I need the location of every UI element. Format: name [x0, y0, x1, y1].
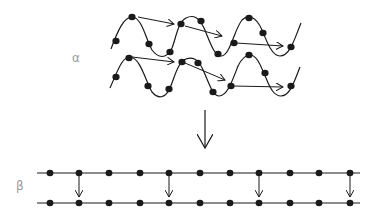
residue-dot: [137, 200, 144, 206]
beta-sheet-group: [37, 170, 360, 206]
residue-dot: [166, 49, 173, 55]
residue-dot: [197, 200, 204, 206]
residue-dot: [145, 41, 152, 47]
residue-dot: [227, 200, 234, 206]
alpha-helix-group: [110, 14, 301, 97]
hbond-arrow: [236, 43, 283, 46]
residue-dot: [112, 74, 119, 80]
residue-dot: [197, 18, 204, 24]
residue-dot: [106, 170, 113, 176]
hbond-arrow: [138, 17, 174, 24]
residue-dot: [227, 83, 234, 89]
residue-dot: [316, 200, 323, 206]
residue-dot: [144, 83, 151, 89]
residue-dot: [316, 170, 323, 176]
residue-dot: [227, 170, 234, 176]
hbond-arrow: [185, 63, 225, 80]
residue-dot: [287, 44, 294, 50]
helix-backbone: [110, 55, 300, 97]
residue-dot: [261, 70, 268, 76]
hbond-arrow: [132, 57, 174, 62]
residue-dot: [112, 38, 119, 44]
residue-dot: [137, 170, 144, 176]
residue-dot: [76, 170, 83, 176]
residue-dot: [287, 83, 294, 89]
residue-dot: [259, 30, 266, 36]
residue-dot: [256, 200, 263, 206]
residue-dot: [197, 170, 204, 176]
residue-dot: [125, 55, 132, 61]
residue-dot: [245, 52, 252, 58]
residue-dot: [128, 14, 135, 20]
residue-dot: [178, 59, 185, 65]
residue-dot: [347, 170, 354, 176]
beta-label: β: [16, 179, 24, 193]
protein-structure-diagram: α β: [0, 0, 378, 217]
residue-dot: [166, 200, 173, 206]
residue-dot: [106, 200, 113, 206]
helix-backbone: [111, 16, 301, 56]
alpha-label: α: [72, 51, 80, 65]
residue-dot: [256, 170, 263, 176]
diagram-canvas: [0, 0, 378, 217]
residue-dot: [287, 200, 294, 206]
residue-dot: [166, 170, 173, 176]
residue-dot: [287, 170, 294, 176]
residue-dot: [165, 86, 172, 92]
residue-dot: [347, 200, 354, 206]
residue-dot: [214, 51, 221, 57]
residue-dot: [245, 15, 252, 21]
residue-dot: [230, 40, 237, 46]
residue-dot: [177, 21, 184, 27]
residue-dot: [194, 60, 201, 66]
hbond-arrow: [233, 86, 283, 87]
residue-dot: [47, 170, 54, 176]
residue-dot: [76, 200, 83, 206]
helix-strand-1: [111, 14, 301, 57]
residue-dot: [209, 89, 216, 95]
residue-dot: [47, 200, 54, 206]
helix-strand-2: [110, 52, 300, 97]
